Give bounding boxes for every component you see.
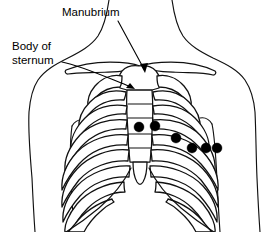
chest-anatomy-figure: Anterior chest wall with sternum and rib… [0,0,277,232]
electrode-dot-v3 [171,133,181,143]
label-manubrium: Manubrium [62,6,120,18]
anatomy-illustration: Anterior chest wall with sternum and rib… [0,0,277,232]
label-body-of-sternum-line2: sternum [12,54,54,66]
electrode-dot-v2 [150,121,160,131]
electrode-dot-v1 [134,122,144,132]
manubrium-bone [119,66,160,90]
electrode-dot-v4 [187,143,197,153]
electrode-dot-v6 [212,143,222,153]
electrode-dot-v5 [201,143,211,153]
label-body-of-sternum-line1: Body of [12,40,52,52]
